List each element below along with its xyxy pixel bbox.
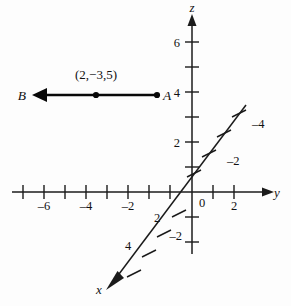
z-axis-group: [185, 14, 199, 254]
z-tick-label-6: 6: [174, 36, 180, 50]
z-axis-label: z: [188, 0, 194, 15]
segment-ab-arrowhead-icon: [32, 88, 47, 102]
x-tick-label-4: 4: [125, 239, 132, 253]
x-tick: [202, 150, 216, 157]
z-tick-label-4: 4: [174, 86, 181, 100]
y-axis-label: y: [272, 185, 280, 200]
x-tick-label-2: 2: [154, 211, 160, 225]
coordinate-diagram: y z x 0 6 4 2 –2 –6 –4 –2 2 2 4 –2 –4 A …: [0, 0, 291, 306]
origin-label: 0: [199, 196, 205, 210]
y-tick-label-minus-2: –2: [121, 199, 135, 213]
y-tick-label-minus-4: –4: [79, 199, 93, 213]
x-tick: [217, 130, 231, 137]
diagram-canvas: y z x 0 6 4 2 –2 –6 –4 –2 2 2 4 –2 –4 A …: [0, 0, 291, 306]
x-tick-label-minus-4: –4: [251, 117, 265, 131]
x-tick: [172, 210, 186, 217]
x-axis-label: x: [95, 282, 102, 297]
segment-ab-group: [32, 88, 160, 102]
vector-coordinates-label: (2,−3,5): [75, 67, 117, 82]
x-axis-group: [106, 105, 246, 290]
y-axis-group: [12, 185, 274, 199]
z-tick-label-2: 2: [174, 136, 180, 150]
y-axis-arrowhead-icon: [262, 188, 274, 197]
point-m-marker: [93, 92, 99, 98]
x-tick: [232, 110, 246, 117]
y-tick-label-minus-6: –6: [37, 199, 51, 213]
x-tick-label-minus-2: –2: [226, 154, 240, 168]
z-tick-label-minus-2: –2: [169, 229, 183, 243]
point-a-label: A: [162, 88, 172, 103]
z-axis-arrowhead-icon: [188, 14, 197, 26]
point-a-marker: [154, 92, 160, 98]
x-tick: [187, 170, 201, 177]
x-tick: [142, 250, 156, 257]
y-tick-label-2: 2: [231, 199, 237, 213]
point-b-label: B: [18, 88, 26, 103]
x-axis-arrowhead-icon: [106, 271, 124, 290]
x-axis-line: [113, 105, 246, 282]
x-tick: [127, 270, 141, 277]
